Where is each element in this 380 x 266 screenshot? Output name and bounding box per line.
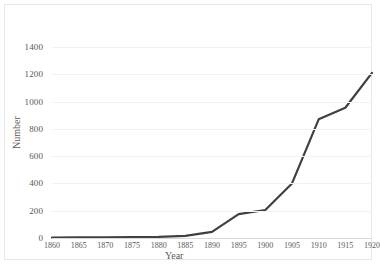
x-axis-tick-label: 1905 (284, 241, 300, 250)
x-axis-tick-labels: 1860186518701875188018851890189519001905… (52, 241, 372, 255)
x-axis-tick-label: 1900 (257, 241, 273, 250)
gridline (52, 183, 372, 184)
y-axis-tick-label: 1400 (25, 42, 43, 52)
y-axis-tick-label: 400 (29, 178, 43, 188)
x-axis-tick-label: 1865 (71, 241, 87, 250)
x-axis-tick-label: 1885 (177, 241, 193, 250)
x-axis-tick-label: 1880 (151, 241, 167, 250)
gridline (52, 102, 372, 103)
x-axis-tick-label: 1910 (311, 241, 327, 250)
line-series-svg (52, 47, 372, 238)
y-axis-tick-label: 1200 (25, 69, 43, 79)
y-axis-tick-label: 600 (29, 151, 43, 161)
x-axis-tick-label: 1875 (124, 241, 140, 250)
gridline (52, 156, 372, 157)
x-axis-tick-label: 1915 (337, 241, 353, 250)
gridline (52, 211, 372, 212)
y-axis-tick-label: 1000 (25, 97, 43, 107)
x-axis-tick-label: 1890 (204, 241, 220, 250)
plot-area (52, 47, 372, 238)
gridline (52, 47, 372, 48)
x-axis-tick-label: 1895 (231, 241, 247, 250)
gridline (52, 74, 372, 75)
chart-container: Number 0200400600800100012001400 1860186… (4, 4, 372, 260)
y-axis-tick-label: 200 (29, 206, 43, 216)
y-axis-tick-label: 800 (29, 124, 43, 134)
gridline (52, 129, 372, 130)
x-axis-tick-label: 1870 (97, 241, 113, 250)
y-axis-tick-labels: 0200400600800100012001400 (5, 47, 48, 238)
x-axis-line (52, 238, 372, 239)
x-axis-tick-label: 1860 (44, 241, 60, 250)
y-axis-tick-label: 0 (38, 233, 43, 243)
x-axis-title: Year (165, 250, 183, 261)
x-axis-tick-label: 1920 (364, 241, 380, 250)
